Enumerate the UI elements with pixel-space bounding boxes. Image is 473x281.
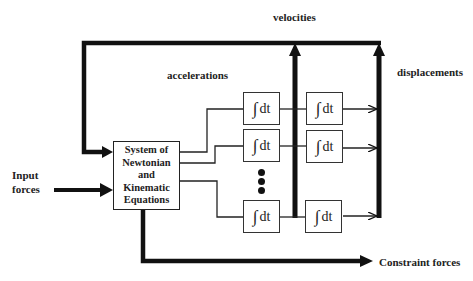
displacement-integrator-box: ∫dt (305, 200, 342, 233)
acceleration-wires (180, 109, 243, 217)
integral-icon: ∫ (316, 99, 321, 119)
displacement-integrator-box: ∫dt (306, 92, 343, 125)
input-forces-label-line1: Input (12, 169, 38, 182)
accelerations-label: accelerations (167, 69, 228, 82)
velocity-integrator-box: ∫dt (243, 92, 280, 125)
diagram-connectors (0, 0, 473, 281)
displacements-label: displacements (397, 66, 463, 79)
system-box-line: Kinematic (123, 182, 170, 195)
system-box-line: Equations (124, 194, 170, 207)
integral-icon: ∫ (253, 99, 258, 119)
ellipsis-dot-icon (258, 187, 265, 194)
velocity-integrator-box: ∫dt (243, 200, 280, 233)
displacement-integrator-box: ∫dt (306, 130, 343, 163)
integral-icon: ∫ (316, 137, 321, 157)
system-box-line: Newtonian (122, 157, 170, 170)
system-box-line: System of (125, 144, 168, 157)
velocity-integrator-box: ∫dt (243, 129, 280, 162)
velocities-label: velocities (273, 11, 316, 24)
ellipsis-dot-icon (258, 169, 265, 176)
displacement-bus (373, 43, 385, 218)
integral-icon: ∫ (315, 207, 320, 227)
system-box-line: and (138, 169, 155, 182)
constraint-forces-label: Constraint forces (379, 256, 460, 269)
velocity-bus (289, 43, 301, 218)
input-forces-arrow (54, 183, 113, 197)
newtonian-kinematic-system-box: System of Newtonian and Kinematic Equati… (113, 141, 180, 210)
input-forces-label-line2: forces (12, 183, 40, 196)
displacement-wires (343, 109, 377, 216)
integral-icon: ∫ (253, 136, 258, 156)
ellipsis-dot-icon (258, 178, 265, 185)
integral-icon: ∫ (253, 207, 258, 227)
